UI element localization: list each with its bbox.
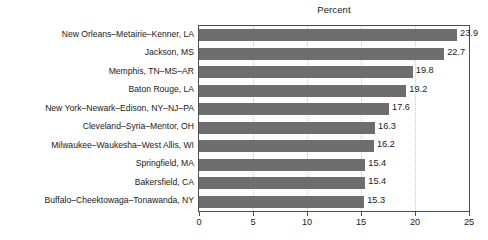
bar-value-label: 16.2 <box>377 139 395 149</box>
bar-row: 19.8 <box>199 63 469 82</box>
bar-chart: Percent 23.922.719.819.217.616.316.215.4… <box>0 0 488 240</box>
x-tick <box>199 212 200 216</box>
bar <box>199 85 406 97</box>
bar <box>199 177 365 189</box>
x-tick-label: 20 <box>410 217 420 227</box>
bar-row: 23.9 <box>199 26 469 45</box>
bar-row: 22.7 <box>199 45 469 64</box>
bar <box>199 196 364 208</box>
x-tick <box>469 212 470 216</box>
bar <box>199 48 444 60</box>
bar <box>199 103 389 115</box>
bar-value-label: 15.4 <box>368 158 386 168</box>
x-tick-label: 15 <box>356 217 366 227</box>
x-tick <box>361 212 362 216</box>
category-label: Milwaukee–Waukesha–West Allis, WI <box>0 140 194 151</box>
bar-value-label: 19.2 <box>409 84 427 94</box>
bar-row: 15.4 <box>199 156 469 175</box>
bar <box>199 29 457 41</box>
x-tick <box>415 212 416 216</box>
x-tick-label: 5 <box>250 217 255 227</box>
bar-row: 19.2 <box>199 82 469 101</box>
bar-value-label: 17.6 <box>392 102 410 112</box>
category-label: Bakersfield, CA <box>0 177 194 188</box>
bar <box>199 122 375 134</box>
category-label: Memphis, TN–MS–AR <box>0 66 194 77</box>
bar <box>199 159 365 171</box>
x-axis: 0510152025 <box>198 212 470 238</box>
category-label: Baton Rouge, LA <box>0 84 194 95</box>
bar-row: 16.2 <box>199 137 469 156</box>
x-tick <box>307 212 308 216</box>
x-tick <box>253 212 254 216</box>
bar-row: 16.3 <box>199 119 469 138</box>
category-label: New York–Newark–Edison, NY–NJ–PA <box>0 103 194 114</box>
plot-area: 23.922.719.819.217.616.316.215.415.415.3 <box>198 25 470 212</box>
bar-row: 17.6 <box>199 100 469 119</box>
bar <box>199 66 413 78</box>
x-tick-label: 25 <box>464 217 474 227</box>
bars-layer: 23.922.719.819.217.616.316.215.415.415.3 <box>199 26 469 211</box>
category-label: Springfield, MA <box>0 158 194 169</box>
bar-row: 15.3 <box>199 193 469 212</box>
category-label: Jackson, MS <box>0 47 194 58</box>
bar-value-label: 22.7 <box>447 47 465 57</box>
x-tick-label: 0 <box>196 217 201 227</box>
category-axis-labels: New Orleans–Metairie–Kenner, LAJackson, … <box>0 25 194 212</box>
bar-value-label: 15.3 <box>367 195 385 205</box>
bar-value-label: 15.4 <box>368 176 386 186</box>
bar-value-label: 19.8 <box>416 65 434 75</box>
x-tick-label: 10 <box>302 217 312 227</box>
category-label: Buffalo–Cheektowaga–Tonawanda, NY <box>0 195 194 206</box>
bar-row: 15.4 <box>199 174 469 193</box>
category-label: New Orleans–Metairie–Kenner, LA <box>0 29 194 40</box>
bar-value-label: 16.3 <box>378 121 396 131</box>
category-label: Cleveland–Syria–Mentor, OH <box>0 121 194 132</box>
bar <box>199 140 374 152</box>
bar-value-label: 23.9 <box>460 28 478 38</box>
chart-title: Percent <box>198 4 470 15</box>
